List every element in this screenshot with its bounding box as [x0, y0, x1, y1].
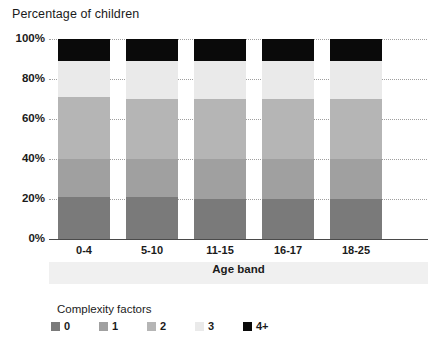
bar-segment	[58, 97, 110, 159]
legend-title: Complexity factors	[57, 303, 152, 315]
bar-segment	[58, 61, 110, 97]
bar-stack	[262, 39, 314, 239]
legend-swatch-icon	[195, 322, 204, 331]
legend-item[interactable]: 0	[51, 321, 70, 332]
legend-item-label: 1	[112, 321, 118, 332]
y-axis-tick-label: 40%	[22, 152, 45, 164]
x-axis-tick-label: 0-4	[58, 244, 110, 256]
legend-item-label: 3	[208, 321, 214, 332]
x-axis-tick-label: 16-17	[262, 244, 314, 256]
y-axis-tick-label: 80%	[22, 72, 45, 84]
x-axis-title: Age band	[49, 263, 428, 275]
bar-segment	[330, 99, 382, 159]
x-axis-tick-label: 5-10	[126, 244, 178, 256]
bar-segment	[126, 197, 178, 239]
chart-container: Percentage of children 0%20%40%60%80%100…	[0, 0, 446, 349]
y-axis-tick-label: 60%	[22, 112, 45, 124]
bar-segment	[126, 61, 178, 99]
bar-segment	[194, 159, 246, 199]
bar-segment	[330, 199, 382, 239]
legend-swatch-icon	[243, 322, 252, 331]
x-axis-tick-label: 18-25	[330, 244, 382, 256]
legend-swatch-icon	[99, 322, 108, 331]
bar-segment	[194, 199, 246, 239]
legend-item[interactable]: 1	[99, 321, 118, 332]
legend-item[interactable]: 2	[147, 321, 166, 332]
bar-stack	[194, 39, 246, 239]
x-axis-tick-label: 11-15	[194, 244, 246, 256]
bar-stack	[126, 39, 178, 239]
plot-area	[49, 39, 427, 239]
legend-swatch-icon	[147, 322, 156, 331]
bar-segment	[58, 159, 110, 197]
x-axis-line	[49, 239, 428, 240]
bar-segment	[330, 159, 382, 199]
legend-item-label: 4+	[256, 321, 269, 332]
bar-segment	[58, 197, 110, 239]
bar-segment	[126, 39, 178, 61]
bar-segment	[262, 61, 314, 99]
legend-swatch-icon	[51, 322, 60, 331]
bar-segment	[262, 199, 314, 239]
bar-segment	[194, 99, 246, 159]
y-axis-tick-label: 100%	[16, 32, 45, 44]
bar-segment	[126, 159, 178, 197]
bar-stack	[330, 39, 382, 239]
bar-segment	[262, 99, 314, 159]
bar-segment	[126, 99, 178, 159]
y-axis-tick-label: 0%	[28, 232, 45, 244]
bar-segment	[194, 39, 246, 61]
y-axis-tick-labels: 0%20%40%60%80%100%	[0, 0, 45, 349]
bar-segment	[330, 39, 382, 61]
y-axis-tick-label: 20%	[22, 192, 45, 204]
legend-item-label: 2	[160, 321, 166, 332]
bar-segment	[262, 39, 314, 61]
bar-segment	[194, 61, 246, 99]
bar-segment	[262, 159, 314, 199]
bar-segment	[330, 61, 382, 99]
bar-segment	[58, 39, 110, 61]
legend-item[interactable]: 3	[195, 321, 214, 332]
legend-item[interactable]: 4+	[243, 321, 269, 332]
legend-item-label: 0	[64, 321, 70, 332]
bar-stack	[58, 39, 110, 239]
